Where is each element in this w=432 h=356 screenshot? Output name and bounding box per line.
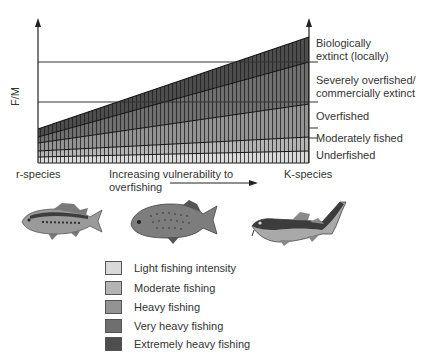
legend-item-extreme: Extremely heavy fishing [105, 336, 250, 352]
legend-swatch-very-heavy [105, 319, 122, 333]
arrow-up-icon [306, 18, 312, 27]
legend-swatch-extreme [105, 337, 122, 351]
legend-swatch-moderate [105, 281, 122, 295]
legend-swatch-light [105, 261, 122, 275]
status-label-severely-overfished: Severely overfished/ commercially extinc… [316, 74, 416, 100]
legend-swatch-heavy [105, 300, 122, 314]
bass-fish-icon [18, 200, 106, 242]
legend-item-moderate: Moderate fishing [105, 280, 215, 296]
y-axis-label: F/M [9, 87, 22, 106]
status-label-underfished: Underfished [316, 149, 375, 162]
grouper-fish-icon [127, 198, 221, 244]
cod-fish-icon [250, 198, 350, 248]
status-label-moderately-fished: Moderately fished [316, 132, 403, 145]
x-label-k-species: K-species [284, 168, 332, 181]
status-label-biologically-extinct: Biologically extinct (locally) [316, 37, 389, 63]
x-label-r-species: r-species [16, 168, 61, 181]
status-label-overfished: Overfished [316, 110, 369, 123]
legend-item-very-heavy: Very heavy fishing [105, 318, 223, 334]
arrow-right-icon [168, 178, 260, 188]
legend-item-heavy: Heavy fishing [105, 299, 200, 315]
legend-item-light: Light fishing intensity [105, 260, 236, 276]
arrow-up-icon [35, 18, 41, 27]
